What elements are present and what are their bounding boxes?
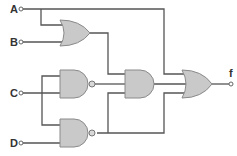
and-gate <box>125 70 154 98</box>
wire-nand2-bus <box>97 93 186 133</box>
logic-circuit-diagram: A B C D f <box>0 0 237 156</box>
wire-a-to-or1 <box>41 9 63 25</box>
input-b-label: B <box>10 36 18 48</box>
nand-gate-1 <box>60 70 88 98</box>
wire-nand2-to-and <box>108 93 126 133</box>
or-gate-2 <box>182 70 212 98</box>
input-c-terminal <box>19 91 23 95</box>
input-a-terminal <box>19 7 23 11</box>
input-d-label: D <box>10 137 18 149</box>
input-c-label: C <box>10 87 18 99</box>
input-d-terminal <box>19 141 23 145</box>
output-f-terminal <box>229 82 233 86</box>
nand-gate-2 <box>60 119 88 147</box>
nand-gate-1-bubble <box>89 81 95 87</box>
or-gate-1 <box>60 20 90 46</box>
wire-or1-to-and <box>90 33 126 74</box>
input-a-label: A <box>10 3 18 15</box>
nand-gate-2-bubble <box>89 130 95 136</box>
output-f-label: f <box>229 67 233 79</box>
wire-c-bus <box>42 76 60 125</box>
input-b-terminal <box>19 40 23 44</box>
